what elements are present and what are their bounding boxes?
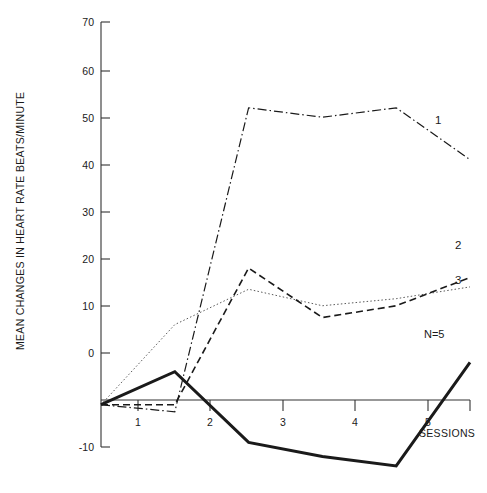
series-4-line [101, 362, 470, 466]
chart-figure: 70 60 50 40 30 20 10 0 -10 1 2 3 4 5 [0, 0, 487, 493]
x-tick-label: 3 [280, 416, 286, 428]
y-tick-label: 70 [82, 16, 94, 28]
y-tick-label: -10 [79, 441, 94, 453]
series-2-line [101, 268, 470, 405]
y-tick-label: 30 [82, 206, 94, 218]
line-chart: 70 60 50 40 30 20 10 0 -10 1 2 3 4 5 [0, 0, 487, 493]
y-tick-label: 50 [82, 112, 94, 124]
y-tick-label: 60 [82, 65, 94, 77]
x-tick-label: 2 [207, 416, 213, 428]
series-2-label: 2 [455, 239, 461, 251]
series-1-label: 1 [435, 114, 441, 126]
y-tick-label: 0 [88, 347, 94, 359]
x-tick-label: 1 [135, 416, 141, 428]
x-axis-ticks [138, 400, 470, 411]
x-axis-title: SESSIONS [419, 427, 475, 439]
y-axis-ticks [101, 22, 110, 447]
y-axis-tick-labels: 70 60 50 40 30 20 10 0 -10 [79, 16, 94, 453]
series-1-line [101, 108, 470, 412]
x-tick-label: 4 [352, 416, 358, 428]
y-tick-label: 20 [82, 253, 94, 265]
y-axis-title: MEAN CHANGES IN HEART RATE BEATS/MINUTE [14, 92, 26, 350]
y-tick-label: 40 [82, 159, 94, 171]
sample-size-note: N=5 [424, 328, 445, 340]
x-axis-tick-labels: 1 2 3 4 5 [135, 416, 431, 428]
y-tick-label: 10 [82, 300, 94, 312]
series-3-label: 3 [455, 274, 461, 286]
series-3-line [101, 287, 470, 405]
